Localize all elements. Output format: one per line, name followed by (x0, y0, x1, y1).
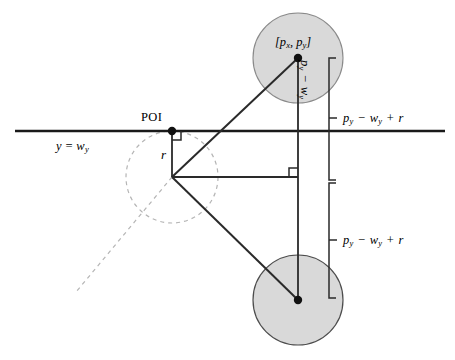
bu-minus: − (353, 111, 369, 125)
wall-eq-sub: y (85, 144, 89, 154)
vertical-distance-label: py − wy (297, 60, 311, 99)
diagonal-reflected-ray (172, 177, 298, 300)
vdist-w: w (298, 87, 312, 95)
wall-equation-label: y = wy (56, 140, 89, 154)
image-center-point (294, 296, 302, 304)
diagonal-incident-ray (172, 58, 298, 177)
right-angle-marker-center (289, 168, 298, 177)
diagram-canvas: POI [px, py] y = wy r py − wy py − wy + … (0, 0, 455, 360)
bu-w: w (370, 111, 378, 125)
bu-plus: + (382, 111, 398, 125)
radius-label: r (161, 148, 166, 161)
geometry-svg (0, 0, 455, 360)
bracket-upper-label: py − wy + r (343, 112, 403, 126)
bracket-lower-label: py − wy + r (343, 234, 403, 248)
vdist-sub2: y (297, 95, 307, 99)
poi-label: POI (141, 111, 162, 124)
dashed-reflection-ray (76, 177, 172, 292)
bl-minus: − (353, 233, 369, 247)
particle-coordinate-label: [px, py] (275, 36, 311, 50)
bl-w: w (370, 233, 378, 247)
coord-open: [p (275, 35, 286, 49)
vdist-minus: − (298, 70, 312, 86)
bu-r: r (398, 111, 403, 125)
coord-close: ] (306, 35, 311, 49)
wall-eq-text: y = w (56, 139, 85, 153)
bl-plus: + (382, 233, 398, 247)
poi-point (168, 127, 176, 135)
bl-r: r (398, 233, 403, 247)
coord-mid: , p (290, 35, 303, 49)
